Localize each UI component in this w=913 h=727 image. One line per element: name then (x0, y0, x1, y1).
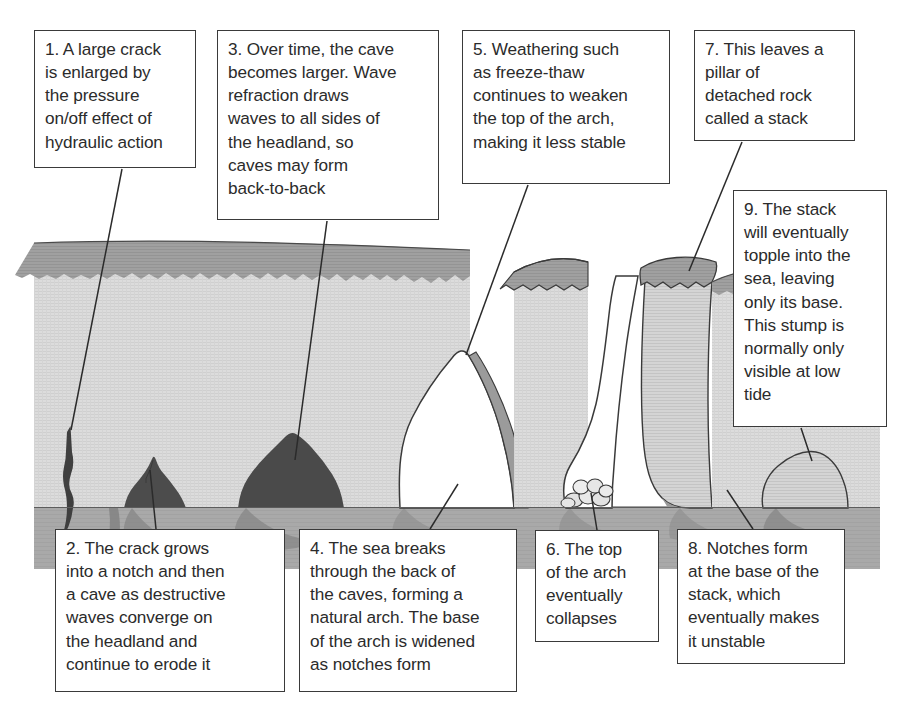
annotation-box-6: 6. The top of the arch eventually collap… (535, 530, 659, 642)
stack-feature (640, 257, 717, 508)
annotation-box-2: 2. The crack grows into a notch and then… (55, 529, 285, 692)
annotation-box-1: 1. A large crack is enlarged by the pres… (34, 30, 196, 168)
diagram-canvas: 1. A large crack is enlarged by the pres… (0, 0, 913, 727)
annotation-box-9: 9. The stack will eventually topple into… (733, 190, 887, 427)
annotation-box-8: 8. Notches form at the base of the stack… (677, 529, 845, 664)
annotation-box-4: 4. The sea breaks through the back of th… (299, 529, 517, 692)
annotation-box-3: 3. Over time, the cave becomes larger. W… (217, 30, 439, 220)
annotation-box-5: 5. Weathering such as freeze-thaw contin… (462, 30, 670, 184)
annotation-box-7: 7. This leaves a pillar of detached rock… (694, 30, 855, 141)
